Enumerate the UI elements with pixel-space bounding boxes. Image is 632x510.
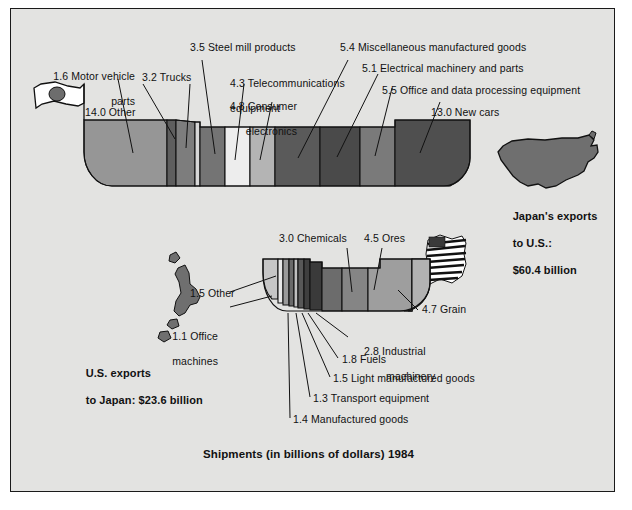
label-steel-mill-products: 3.5 Steel mill products [190,41,296,54]
label-new-cars: 13.0 New cars [431,106,499,119]
us-exports-line2: to Japan: $23.6 billion [86,394,203,406]
us-exports-line1: U.S. exports [86,367,151,379]
label-consumer-electronics: 4.8 Consumer electronics [192,87,297,150]
label-fuels: 1.8 Fuels [342,353,386,366]
label-office-data-processing: 5.5 Office and data processing equipment [382,84,580,97]
japan-exports-line3: $60.4 billion [513,264,577,276]
label-consumer-line2: electronics [246,125,297,137]
chart-caption: Shipments (in billions of dollars) 1984 [203,448,414,462]
label-other-japan: 14.0 Other [85,106,136,119]
japan-exports-line1: Japan's exports [513,210,598,222]
label-misc-manufactured-goods: 5.4 Miscellaneous manufactured goods [340,41,526,54]
label-other-us: 1.5 Other [190,287,235,300]
label-motor-vehicle-parts-line1: 1.6 Motor vehicle [53,70,135,82]
japan-exports-summary: Japan's exports to U.S.: $60.4 billion [500,196,597,291]
label-motor-vehicle-parts-line2: parts [111,95,135,107]
label-trucks: 3.2 Trucks [142,71,191,84]
label-light-manufactured-goods: 1.5 Light manufactured goods [333,372,475,385]
label-transport-equipment: 1.3 Transport equipment [313,392,429,405]
label-grain: 4.7 Grain [422,303,466,316]
label-chemicals: 3.0 Chemicals [279,232,347,245]
label-manufactured-goods: 1.4 Manufactured goods [293,413,408,426]
label-consumer-line1: 4.8 Consumer [230,100,297,112]
us-exports-summary: U.S. exports to Japan: $23.6 billion [73,353,203,421]
label-ores: 4.5 Ores [364,232,405,245]
infographic-stage: 1.6 Motor vehicle parts 3.2 Trucks 3.5 S… [0,0,632,510]
label-electrical-machinery: 5.1 Electrical machinery and parts [362,62,524,75]
label-office-machines-line1: 1.1 Office [172,330,218,342]
japan-exports-line2: to U.S.: [513,237,552,249]
